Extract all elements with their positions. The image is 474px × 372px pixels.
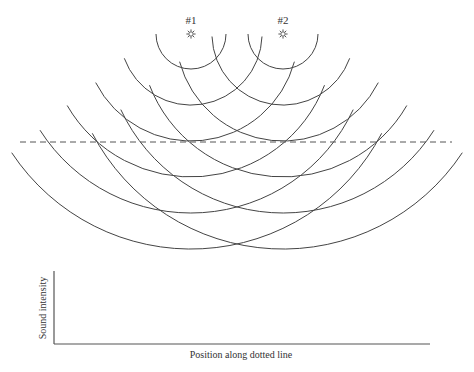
y-axis-label: Sound intensity bbox=[37, 277, 48, 340]
source-1-label: #1 bbox=[186, 14, 197, 26]
wavefront-arc bbox=[212, 37, 350, 106]
wavefront-arc bbox=[156, 34, 226, 69]
wavefront-arc bbox=[40, 110, 353, 213]
wavefront-arc bbox=[248, 34, 318, 69]
wavefront-arc bbox=[124, 37, 262, 106]
wavefront-arc bbox=[180, 62, 379, 141]
wavefront-arc bbox=[121, 110, 434, 213]
sound-source-1: #1 bbox=[186, 14, 197, 39]
source-2-label: #2 bbox=[278, 14, 289, 26]
wavefront-arc bbox=[96, 62, 295, 141]
interference-diagram: #1 #2 Sound intensity Position along dot… bbox=[0, 0, 474, 372]
speaker-star-icon bbox=[186, 29, 195, 38]
sound-source-2: #2 bbox=[278, 14, 289, 39]
intensity-graph: Sound intensity Position along dotted li… bbox=[37, 271, 430, 360]
x-axis-label: Position along dotted line bbox=[190, 349, 293, 360]
speaker-star-icon bbox=[278, 29, 287, 38]
